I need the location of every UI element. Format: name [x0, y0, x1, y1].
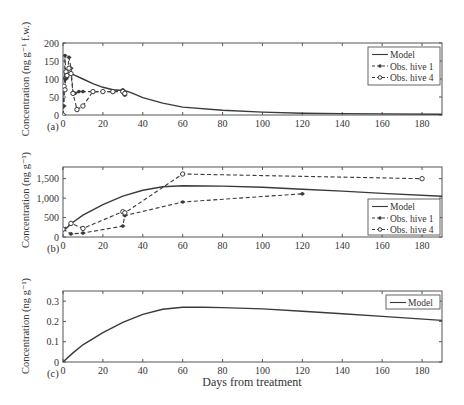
panel-tag: (b) [47, 243, 60, 255]
x-tick-label: 0 [61, 365, 66, 376]
panel-tag: (a) [47, 121, 59, 133]
y-tick-label: 100 [44, 74, 59, 85]
series-model [63, 307, 442, 362]
x-tick-label: 40 [138, 118, 148, 129]
series-obs-hive-1 [63, 194, 302, 234]
plot-area [63, 307, 442, 362]
legend-label: Model [408, 298, 433, 308]
star-marker-icon [378, 216, 381, 219]
circle-marker-icon [61, 227, 65, 231]
legend-label: Obs. hive 1 [390, 214, 434, 224]
y-tick-label: 1,500 [37, 173, 60, 184]
circle-marker-icon [61, 113, 65, 117]
x-tick-label: 20 [98, 118, 108, 129]
x-tick-label: 180 [415, 365, 430, 376]
x-tick-label: 100 [255, 118, 270, 129]
y-tick-label: 500 [44, 212, 59, 223]
legend-label: Model [390, 50, 415, 60]
circle-marker-icon [69, 221, 73, 225]
legend-label: Obs. hive 4 [390, 225, 434, 235]
x-tick-label: 120 [295, 240, 310, 251]
x-tick-label: 180 [415, 240, 430, 251]
x-tick-label: 120 [295, 118, 310, 129]
circle-marker-icon [123, 91, 127, 95]
y-axis-label: Concentration (ng g⁻¹) [20, 277, 32, 374]
x-tick-label: 80 [218, 118, 228, 129]
x-tick-label: 140 [335, 118, 350, 129]
circle-marker-icon [378, 228, 382, 232]
circle-marker-icon [63, 88, 67, 92]
y-axis-label: Concentration (ng g⁻¹) [20, 151, 32, 248]
x-tick-label: 160 [375, 118, 390, 129]
panel-c: 02040608010012014016018000.10.20.3Concen… [20, 277, 442, 380]
circle-marker-icon [67, 66, 71, 70]
y-tick-label: 0.3 [47, 296, 60, 307]
plot-frame [63, 291, 442, 362]
x-tick-label: 140 [335, 240, 350, 251]
x-axis-label: Days from treatment [202, 375, 302, 389]
x-tick-label: 140 [335, 365, 350, 376]
y-tick-label: 200 [44, 38, 59, 49]
y-axis-label: Concentration (ng g⁻¹ f.w.) [20, 21, 32, 136]
x-tick-label: 0 [61, 240, 66, 251]
x-tick-label: 40 [138, 240, 148, 251]
figure: 020406080100120140160180050100150200Conc… [0, 0, 464, 405]
legend: ModelObs. hive 1Obs. hive 4 [368, 199, 440, 235]
legend-label: Obs. hive 1 [390, 62, 434, 72]
circle-marker-icon [91, 89, 95, 93]
star-marker-icon [378, 64, 381, 67]
circle-marker-icon [111, 89, 115, 93]
y-tick-label: 150 [44, 56, 59, 67]
y-tick-label: 50 [49, 92, 59, 103]
chart-canvas: 020406080100120140160180050100150200Conc… [0, 0, 464, 405]
circle-marker-icon [378, 76, 382, 80]
y-tick-label: 0 [54, 357, 59, 368]
y-tick-label: 0.1 [47, 336, 60, 347]
legend: Model [386, 295, 440, 309]
x-tick-label: 60 [178, 365, 188, 376]
circle-marker-icon [123, 211, 127, 215]
panel-a: 020406080100120140160180050100150200Conc… [20, 21, 442, 136]
x-tick-label: 100 [255, 240, 270, 251]
circle-marker-icon [69, 71, 73, 75]
x-tick-label: 0 [61, 118, 66, 129]
circle-marker-icon [81, 226, 85, 230]
circle-marker-icon [180, 172, 184, 176]
legend-label: Obs. hive 4 [390, 73, 434, 83]
legend-label: Model [390, 202, 415, 212]
legend: ModelObs. hive 1Obs. hive 4 [368, 47, 440, 85]
x-tick-label: 60 [178, 240, 188, 251]
y-tick-label: 0 [54, 110, 59, 121]
x-tick-label: 20 [98, 365, 108, 376]
circle-marker-icon [420, 176, 424, 180]
panel-b: 02040608010012014016018005001,0001,500Co… [20, 151, 442, 255]
x-tick-label: 160 [375, 365, 390, 376]
circle-marker-icon [81, 104, 85, 108]
x-tick-label: 80 [218, 240, 228, 251]
y-tick-label: 0.2 [47, 316, 60, 327]
y-tick-label: 1,000 [37, 193, 60, 204]
x-tick-label: 180 [415, 118, 430, 129]
y-tick-label: 0 [54, 232, 59, 243]
circle-marker-icon [75, 107, 79, 111]
circle-marker-icon [71, 91, 75, 95]
x-tick-label: 40 [138, 365, 148, 376]
x-tick-label: 20 [98, 240, 108, 251]
panel-tag: (c) [47, 368, 59, 380]
circle-marker-icon [101, 89, 105, 93]
x-tick-label: 160 [375, 240, 390, 251]
x-tick-label: 60 [178, 118, 188, 129]
